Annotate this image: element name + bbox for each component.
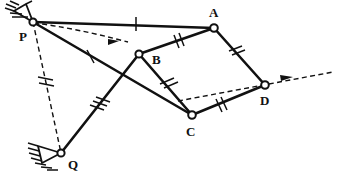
joint-label-b: B: [152, 52, 161, 67]
link-pq-dashed: [33, 22, 61, 153]
ground-hatch-p-1: [5, 8, 14, 11]
linkage-diagram: P A B C D Q: [0, 0, 337, 176]
link-ad: [214, 28, 265, 85]
link-cd: [192, 85, 265, 115]
ground-symbol-q: [28, 143, 61, 170]
tick-bq: [90, 97, 110, 110]
ground-hatch-p-6: [26, 1, 32, 4]
link-bc: [139, 54, 192, 115]
ground-hatch-p-3: [10, 1, 19, 5]
ground-hatch-q-5: [35, 163, 46, 165]
joint-label-q: Q: [68, 157, 78, 172]
linkage-svg: P A B C D Q: [0, 0, 337, 176]
joint-q: [57, 149, 64, 156]
joint-d: [261, 81, 269, 89]
joint-label-a: A: [209, 5, 219, 20]
velocity-vector-d-path: [178, 72, 333, 101]
velocity-vector-d: [178, 72, 333, 101]
joint-a: [210, 24, 218, 32]
ground-symbol-p: [5, 1, 33, 22]
joint-b: [135, 50, 142, 57]
ground-hatch-p-2: [6, 4, 16, 8]
joint-p: [29, 18, 36, 25]
ground-hatch-q-1: [28, 143, 38, 146]
ground-hatch-q-3: [29, 153, 40, 156]
velocity-vector-b: [34, 23, 128, 45]
joint-c: [188, 111, 196, 119]
joint-label-c: C: [186, 124, 195, 139]
ground-hatch-q-2: [28, 148, 39, 151]
link-pc: [33, 22, 192, 115]
ground-hatch-p-4: [10, 13, 22, 14]
joint-label-d: D: [260, 93, 269, 108]
joint-label-p: P: [19, 29, 27, 44]
ground-hatch-q-6: [41, 167, 52, 168]
